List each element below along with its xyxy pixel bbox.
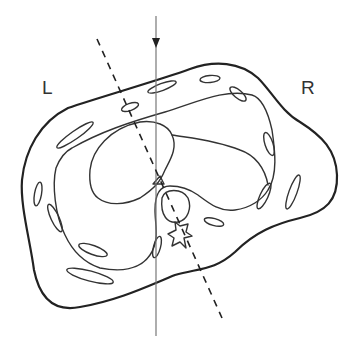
cross-section-drawing [0, 0, 357, 349]
oblique-dashed-line [97, 39, 222, 318]
vertebral-body [162, 191, 190, 223]
rib [77, 241, 108, 260]
rib [66, 265, 115, 287]
rib [283, 174, 303, 211]
beam-arrowhead [152, 38, 160, 48]
rib [200, 75, 221, 84]
rib [203, 216, 224, 228]
thorax-diagram: L R [0, 0, 357, 349]
rib [151, 235, 163, 258]
right-lung-border [172, 135, 268, 185]
body-outline [22, 64, 337, 308]
rib [45, 203, 65, 234]
rib [32, 182, 43, 207]
